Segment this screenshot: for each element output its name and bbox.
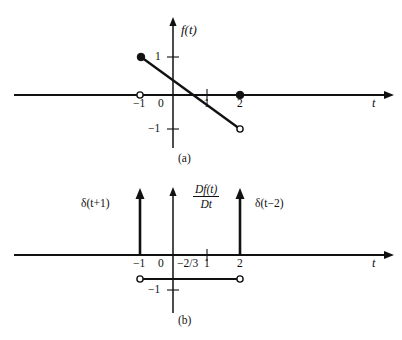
panel-b-xtick-zero: 0 [158,258,164,270]
impulse-label-left: δ(t+1) [81,198,110,210]
open-marker-level-right [237,276,243,282]
panel-a-plot [0,0,402,160]
panel-a-ramp-segment [141,57,240,129]
impulse-arrow-at-minus1 [136,188,145,255]
panel-b-y-axis-label: Df(t) Dt [193,183,219,211]
panel-b-y-axis-numerator: Df(t) [193,183,219,196]
panel-a-ytick-one: 1 [155,51,161,63]
open-marker-level-left [137,276,143,282]
panel-a-ytick-minus1: −1 [148,123,160,135]
panel-a-y-axis-label: f(t) [181,23,197,36]
panel-a-xtick-two: 2 [237,98,243,110]
figure-root: f(t) t −1 0 1 2 1 −1 (a) [0,0,402,340]
panel-b-xtick-minus1: −1 [133,258,145,270]
panel-b-x-axis-label: t [372,257,375,270]
panel-b-ytick-minus1: −1 [148,284,160,296]
panel-a-caption: (a) [178,153,191,165]
panel-b-y-axis [169,187,176,313]
impulse-arrow-at-two [236,188,245,255]
impulse-label-right: δ(t−2) [255,198,284,210]
panel-b-y-axis-denominator: Dt [193,198,219,211]
panel-a-xtick-zero: 0 [158,98,164,110]
open-marker-at-two-minus1 [237,126,243,132]
panel-a-xtick-minus1: −1 [133,98,145,110]
panel-b-caption: (b) [178,315,191,327]
filled-marker-at-minus1-one [137,53,145,61]
panel-b-xtick-two: 2 [237,258,243,270]
panel-a-x-axis-label: t [372,97,375,110]
panel-a-xtick-one: 1 [204,98,210,110]
panel-b-level-segment [137,276,243,282]
panel-b-xtick-one: 1 [204,258,210,270]
panel-b-ytick-minus-two-thirds: −2/3 [177,258,198,270]
